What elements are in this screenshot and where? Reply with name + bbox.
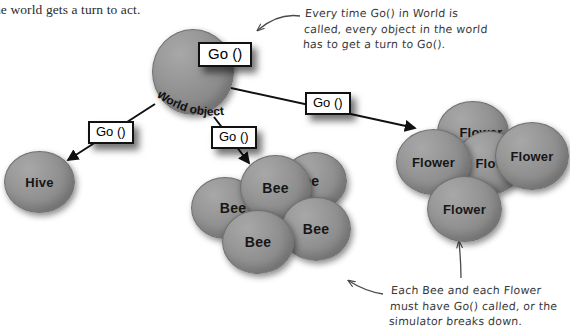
- bee-label: Bee: [262, 180, 288, 196]
- go-callout-world[interactable]: Go (): [198, 42, 252, 67]
- hive-object-circle[interactable]: Hive: [4, 151, 75, 213]
- flower-object-circle[interactable]: Flower: [495, 122, 569, 190]
- annotation-pointer-flowers: [459, 242, 461, 278]
- bee-object-circle[interactable]: Bee: [222, 210, 294, 274]
- go-callout-hive[interactable]: Go (): [88, 121, 134, 144]
- go-callout-bees[interactable]: Go (): [211, 126, 257, 149]
- flower-label: Flower: [510, 149, 553, 164]
- annotation-pointer-top: [258, 16, 300, 30]
- diagram-canvas: he world gets a turn to act. World objec…: [0, 0, 570, 335]
- bee-label: Bee: [245, 234, 271, 250]
- flower-label: Flower: [443, 202, 486, 217]
- go-callout-flowers[interactable]: Go (): [305, 92, 351, 115]
- annotation-note-top: Every time Go() in World is called, ever…: [302, 6, 489, 53]
- flower-object-circle[interactable]: Flower: [427, 176, 502, 242]
- hive-label: Hive: [25, 175, 53, 190]
- bee-label: Bee: [303, 221, 329, 237]
- book-body-text: he world gets a turn to act.: [0, 2, 140, 18]
- annotation-note-bottom: Each Bee and each Flower must have Go() …: [388, 283, 559, 330]
- flower-label: Flower: [412, 155, 455, 170]
- annotation-pointer-bees: [349, 281, 383, 294]
